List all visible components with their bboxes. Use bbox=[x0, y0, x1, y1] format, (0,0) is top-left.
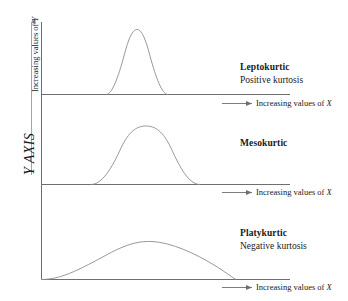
x-axis-caption-text-mesokurtic: Increasing values of bbox=[256, 187, 327, 197]
panel-title-mesokurtic: Mesokurtic bbox=[240, 138, 287, 148]
x-axis-caption-text-platykurtic: Increasing values of bbox=[256, 282, 327, 292]
diagram-canvas bbox=[0, 0, 348, 301]
panel-subtitle-leptokurtic: Positive kurtosis bbox=[240, 75, 303, 85]
x-axis-variable-platykurtic: X bbox=[327, 282, 332, 292]
panel-title-leptokurtic: Leptokurtic bbox=[240, 62, 290, 72]
x-axis-caption-text-leptokurtic: Increasing values of bbox=[256, 98, 327, 108]
x-axis-caption-platykurtic: Increasing values of X bbox=[256, 283, 332, 292]
curve-platykurtic bbox=[42, 241, 236, 279]
x-axis-caption-mesokurtic: Increasing values of X bbox=[256, 188, 332, 197]
y-axis-variable: Y bbox=[30, 17, 40, 22]
x-axis-variable-mesokurtic: X bbox=[327, 187, 332, 197]
y-axis-title: Y AXIS bbox=[22, 133, 38, 175]
x-axis-caption-leptokurtic: Increasing values of X bbox=[256, 99, 332, 108]
panel-subtitle-platykurtic: Negative kurtosis bbox=[240, 241, 307, 251]
curve-leptokurtic bbox=[106, 30, 168, 95]
x-axis-variable-leptokurtic: X bbox=[327, 98, 332, 108]
kurtosis-diagram: Y AXIS Increasing values of Y Leptokurti… bbox=[0, 0, 348, 301]
panel-title-platykurtic: Platykurtic bbox=[240, 228, 287, 238]
curve-mesokurtic bbox=[91, 126, 200, 185]
y-axis-direction-label: Increasing values of Y bbox=[30, 17, 40, 92]
y-axis-direction-text: Increasing values of bbox=[30, 21, 40, 92]
